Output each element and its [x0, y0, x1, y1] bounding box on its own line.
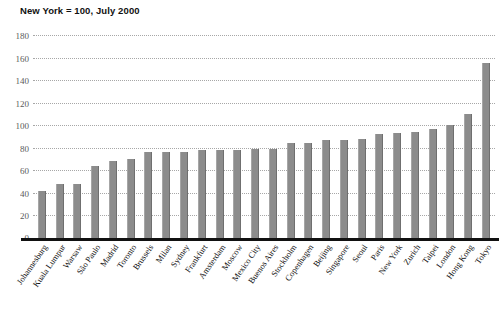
bar-slot	[424, 35, 442, 238]
x-label-slot: Copenhagen	[299, 241, 317, 318]
x-label-slot: Warsaw	[69, 241, 87, 318]
x-axis-labels: JohannesburgKuala LumpurWarsawSão PauloM…	[33, 241, 495, 318]
bar[interactable]	[216, 150, 224, 238]
y-axis-tick-label: 20	[20, 211, 29, 221]
bar[interactable]	[127, 159, 135, 238]
bar-slot	[317, 35, 335, 238]
x-label-slot: Brussels	[140, 241, 158, 318]
bar[interactable]	[393, 133, 401, 238]
x-label-slot: Sydney	[175, 241, 193, 318]
y-axis-tick-label: 60	[20, 166, 29, 176]
bar-slot	[459, 35, 477, 238]
bar-slot	[193, 35, 211, 238]
bar[interactable]	[56, 184, 64, 238]
x-label-slot: Amsterdam	[211, 241, 229, 318]
bar[interactable]	[198, 150, 206, 238]
y-axis-tick-label: 40	[20, 189, 29, 199]
bar-slot	[86, 35, 104, 238]
x-label-slot: Madrid	[104, 241, 122, 318]
bar-slot	[299, 35, 317, 238]
bar-slot	[157, 35, 175, 238]
x-label-slot: Zurich	[406, 241, 424, 318]
bar-series	[33, 35, 495, 238]
bar-slot	[140, 35, 158, 238]
bar-slot	[388, 35, 406, 238]
x-label-slot: Seoul	[353, 241, 371, 318]
bar-slot	[211, 35, 229, 238]
y-axis-tick-label: 80	[20, 144, 29, 154]
x-label-slot: Buenos Aires	[264, 241, 282, 318]
bar-slot	[122, 35, 140, 238]
bar[interactable]	[340, 140, 348, 238]
bar[interactable]	[91, 166, 99, 238]
x-label-slot: Beijing	[317, 241, 335, 318]
bar[interactable]	[287, 143, 295, 238]
bar[interactable]	[38, 191, 46, 238]
y-axis-tick-label: 100	[16, 121, 30, 131]
bar-slot	[246, 35, 264, 238]
bar[interactable]	[322, 140, 330, 238]
x-label-slot: New York	[388, 241, 406, 318]
bar[interactable]	[73, 184, 81, 238]
bar[interactable]	[429, 129, 437, 238]
bar[interactable]	[180, 152, 188, 238]
bar-slot	[51, 35, 69, 238]
x-label-slot: Hong Kong	[459, 241, 477, 318]
bar[interactable]	[464, 114, 472, 238]
bar[interactable]	[482, 63, 490, 238]
x-label-slot: Toronto	[122, 241, 140, 318]
bar-slot	[335, 35, 353, 238]
bar[interactable]	[109, 161, 117, 238]
bar[interactable]	[411, 132, 419, 238]
bar-slot	[282, 35, 300, 238]
y-axis-tick-label: 160	[16, 54, 30, 64]
bar[interactable]	[358, 139, 366, 238]
x-label-slot: Taipei	[424, 241, 442, 318]
bar[interactable]	[251, 149, 259, 238]
bar[interactable]	[233, 150, 241, 238]
bar-slot	[442, 35, 460, 238]
x-axis-tick-label: Tokyo	[474, 243, 493, 266]
bar-slot	[33, 35, 51, 238]
y-axis-tick-label: 140	[16, 76, 30, 86]
x-label-slot: Paris	[371, 241, 389, 318]
bar-slot	[228, 35, 246, 238]
bar[interactable]	[269, 149, 277, 238]
x-label-slot: Frankfurt	[193, 241, 211, 318]
bar-slot	[371, 35, 389, 238]
bar-chart: New York = 100, July 2000 18016014012010…	[0, 0, 502, 318]
x-label-slot: São Paulo	[86, 241, 104, 318]
bar-slot	[175, 35, 193, 238]
x-label-slot: Singapore	[335, 241, 353, 318]
chart-title: New York = 100, July 2000	[20, 5, 140, 16]
bar-slot	[69, 35, 87, 238]
y-axis-tick-label: 120	[16, 99, 30, 109]
bar[interactable]	[304, 143, 312, 238]
y-axis-tick-label: 180	[16, 31, 30, 41]
bar-slot	[264, 35, 282, 238]
bar[interactable]	[446, 125, 454, 238]
bar[interactable]	[162, 152, 170, 238]
bar[interactable]	[375, 134, 383, 238]
bar[interactable]	[144, 152, 152, 238]
bar-slot	[477, 35, 495, 238]
x-label-slot: Kuala Lumpur	[51, 241, 69, 318]
bar-slot	[353, 35, 371, 238]
x-axis-tick-label: Seoul	[351, 243, 369, 264]
x-label-slot: Tokyo	[477, 241, 495, 318]
bar-slot	[104, 35, 122, 238]
plot-area: 180160140120100806040200	[33, 35, 495, 238]
x-label-slot: Milan	[157, 241, 175, 318]
bar-slot	[406, 35, 424, 238]
